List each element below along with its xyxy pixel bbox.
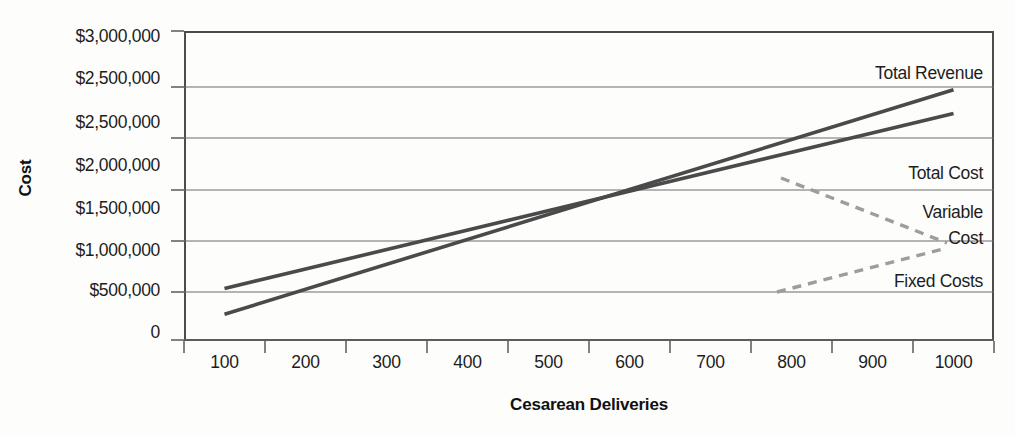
y-axis-tick-label: $2,500,000 <box>24 112 160 133</box>
y-axis-tick-label: $2,500,000 <box>24 68 160 89</box>
x-axis-tick-label: 100 <box>210 352 238 373</box>
y-axis-tick-label: $1,500,000 <box>24 198 160 219</box>
x-axis-tick-labels: 1002003004005006007008009001000 <box>184 352 994 382</box>
y-axis-tick-label: $500,000 <box>24 280 160 301</box>
x-axis-tick-label: 300 <box>372 352 400 373</box>
breakeven-chart: Cost $3,000,000$2,500,000$2,500,000$2,00… <box>0 0 1015 437</box>
series-annotation-label: Total Revenue <box>663 63 983 84</box>
x-axis-tick-label: 500 <box>534 352 562 373</box>
y-axis-tick-labels: $3,000,000$2,500,000$2,500,000$2,000,000… <box>24 0 160 437</box>
series-annotation-label: Variable <box>663 202 983 223</box>
x-axis-tick-label: 400 <box>453 352 481 373</box>
y-axis-tick-label: $3,000,000 <box>24 26 160 47</box>
x-axis-tick-label: 1000 <box>935 352 973 373</box>
x-axis-title: Cesarean Deliveries <box>184 395 994 415</box>
series-annotation-label: Total Cost <box>663 163 983 184</box>
x-axis-tick-label: 900 <box>858 352 886 373</box>
y-axis-tick-label: 0 <box>24 322 160 343</box>
x-axis-tick-label: 800 <box>777 352 805 373</box>
series-annotation-label: Fixed Costs <box>663 271 983 292</box>
y-axis-tick-label: $1,000,000 <box>24 240 160 261</box>
x-axis-tick-label: 600 <box>615 352 643 373</box>
x-axis-tick-label: 700 <box>696 352 724 373</box>
series-annotation-label: Cost <box>663 228 983 249</box>
x-axis-tick-label: 200 <box>291 352 319 373</box>
y-axis-tick-label: $2,000,000 <box>24 155 160 176</box>
